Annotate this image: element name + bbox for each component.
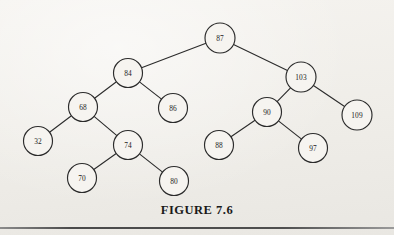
tree-edge-74-to-70 — [94, 153, 116, 169]
node-label-97: 97 — [309, 144, 317, 153]
node-label-74: 74 — [124, 141, 132, 150]
node-label-68: 68 — [79, 103, 87, 112]
tree-edge-84-to-68 — [95, 82, 117, 99]
tree-edge-68-to-74 — [94, 116, 117, 135]
tree-edge-74-to-80 — [139, 154, 162, 172]
tree-edge-84-to-86 — [139, 82, 161, 99]
node-label-87: 87 — [216, 34, 224, 43]
tree-edge-103-to-109 — [313, 85, 344, 106]
node-label-86: 86 — [169, 104, 177, 113]
node-label-80: 80 — [170, 177, 178, 186]
tree-edge-87-to-84 — [142, 43, 206, 68]
tree-node-103[interactable]: 103 — [286, 62, 316, 92]
node-label-109: 109 — [351, 111, 363, 120]
node-label-84: 84 — [124, 69, 132, 78]
tree-nodes-group: 8784103688690109327488977080 — [24, 23, 373, 196]
node-label-88: 88 — [215, 141, 223, 150]
bottom-divider-rule — [0, 227, 394, 229]
figure-page: 8784103688690109327488977080 FIGURE 7.6 — [0, 0, 394, 235]
tree-edge-103-to-90 — [277, 88, 290, 102]
tree-node-90[interactable]: 90 — [253, 98, 282, 127]
tree-node-68[interactable]: 68 — [69, 93, 98, 122]
tree-node-109[interactable]: 109 — [342, 100, 372, 130]
tree-node-84[interactable]: 84 — [114, 59, 143, 88]
tree-node-86[interactable]: 86 — [159, 94, 188, 123]
figure-caption: FIGURE 7.6 — [0, 203, 394, 218]
node-label-70: 70 — [78, 174, 86, 183]
tree-edge-90-to-88 — [231, 120, 255, 137]
tree-edge-68-to-32 — [50, 116, 72, 133]
tree-node-80[interactable]: 80 — [160, 167, 189, 196]
tree-node-87[interactable]: 87 — [205, 23, 235, 53]
tree-edge-90-to-97 — [278, 121, 301, 139]
node-label-90: 90 — [263, 108, 271, 117]
tree-node-88[interactable]: 88 — [205, 131, 234, 160]
tree-node-32[interactable]: 32 — [24, 127, 53, 156]
tree-edge-87-to-103 — [234, 45, 288, 71]
tree-node-70[interactable]: 70 — [68, 164, 97, 193]
tree-node-74[interactable]: 74 — [114, 131, 143, 160]
binary-tree-diagram: 8784103688690109327488977080 — [0, 0, 394, 205]
node-label-103: 103 — [295, 73, 307, 82]
tree-node-97[interactable]: 97 — [299, 134, 328, 163]
node-label-32: 32 — [34, 137, 42, 146]
